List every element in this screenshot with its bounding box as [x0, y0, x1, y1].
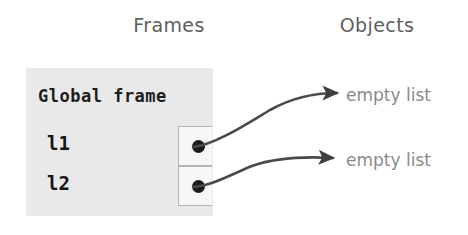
- pointer-dot-icon: [192, 140, 205, 153]
- arrow-l2-to-object: [193, 157, 333, 187]
- variable-value-cell-l1: [178, 126, 212, 166]
- pointer-dot-icon: [192, 180, 205, 193]
- global-frame-title: Global frame: [38, 86, 167, 106]
- variable-name-l2: l2: [10, 172, 70, 194]
- memory-diagram: Frames Objects Global frame l1 l2 empty …: [0, 0, 468, 235]
- frames-column-header: Frames: [104, 14, 234, 36]
- object-label-empty-list-1: empty list: [346, 85, 431, 105]
- variable-name-l1: l1: [10, 132, 70, 154]
- objects-column-header: Objects: [312, 14, 442, 36]
- arrow-l1-to-object: [193, 93, 337, 147]
- object-label-empty-list-2: empty list: [346, 150, 431, 170]
- variable-value-cell-l2: [178, 166, 212, 206]
